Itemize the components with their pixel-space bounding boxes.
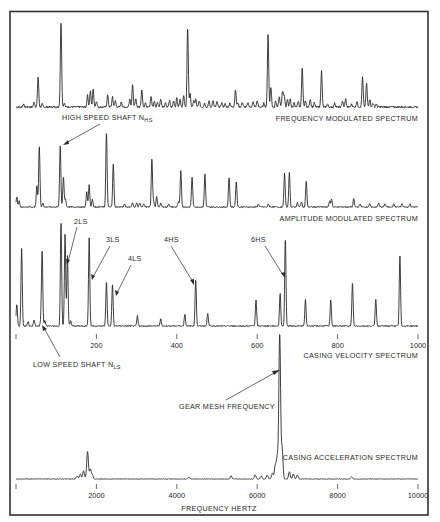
x-tick-label: 200 (90, 341, 102, 350)
acceleration-x-axis: 200040006000800010000 (16, 484, 428, 500)
arrowhead-icon (190, 279, 194, 285)
arrow-4hs (171, 246, 193, 282)
vibration-spectra-figure: 2004006008001000 200040006000800010000 F… (0, 0, 440, 522)
velocity-spectrum-title: CASING VELOCITY SPECTRUM (304, 351, 419, 360)
arrow-2ls (68, 227, 77, 262)
high-speed-shaft-arrow (66, 124, 100, 143)
arrowhead-icon (42, 325, 47, 331)
label-3ls: 3LS (106, 235, 120, 244)
arrowhead-icon (63, 140, 69, 145)
arrow-4ls (117, 265, 131, 293)
fm-spectrum-title: FREQUENCY MODULATED SPECTRUM (276, 114, 418, 123)
arrowhead-icon (281, 272, 285, 278)
x-tick-label: 400 (171, 341, 183, 350)
am-spectrum-title: AMPLITUDE MODULATED SPECTRUM (280, 214, 418, 223)
label-6hs: 6HS (251, 235, 266, 244)
label-4ls: 4LS (128, 254, 142, 263)
x-tick-label: 800 (331, 341, 343, 350)
am-spectrum-trace (16, 134, 418, 208)
x-tick-label: 6000 (249, 491, 265, 500)
low-speed-shaft-label: LOW SPEED SHAFT NLS (33, 360, 121, 370)
velocity-spectrum-trace (16, 223, 418, 326)
low-speed-shaft-arrow (44, 328, 60, 357)
label-2ls: 2LS (74, 217, 88, 226)
gear-mesh-label: GEAR MESH FREQUENCY (179, 402, 275, 411)
arrow-3ls (93, 246, 110, 277)
x-tick-label: 2000 (88, 491, 104, 500)
x-tick-label: 10000 (408, 491, 429, 500)
arrow-6hs (265, 246, 283, 275)
acceleration-spectrum-title: CASING ACCELERATION SPECTRUM (283, 453, 418, 462)
x-axis-title: FREQUENCY HERTZ (181, 504, 257, 513)
fm-spectrum-trace (16, 23, 418, 108)
x-tick-label: 1000 (410, 341, 426, 350)
x-tick-label: 4000 (169, 491, 185, 500)
gear-mesh-arrow (226, 372, 276, 400)
velocity-x-axis: 2004006008001000 (16, 334, 426, 350)
high-speed-shaft-label: HIGH SPEED SHAFT NHS (62, 113, 153, 123)
x-tick-label: 8000 (329, 491, 345, 500)
figure-frame (10, 12, 428, 516)
label-4hs: 4HS (164, 235, 179, 244)
x-tick-label: 600 (251, 341, 263, 350)
